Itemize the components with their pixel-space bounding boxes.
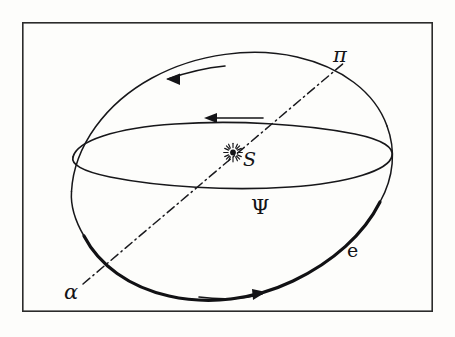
diagram-canvas: π S Ψ e α (0, 0, 455, 337)
label-eccentric: e (347, 239, 358, 261)
label-aphelion: α (64, 280, 78, 304)
sun-icon (224, 143, 243, 162)
border-frame (23, 23, 432, 311)
label-node: Ψ (251, 195, 269, 219)
label-perihelion: π (332, 43, 348, 67)
orbital-diagram-figure: π S Ψ e α (0, 0, 455, 337)
label-sun: S (243, 148, 256, 170)
